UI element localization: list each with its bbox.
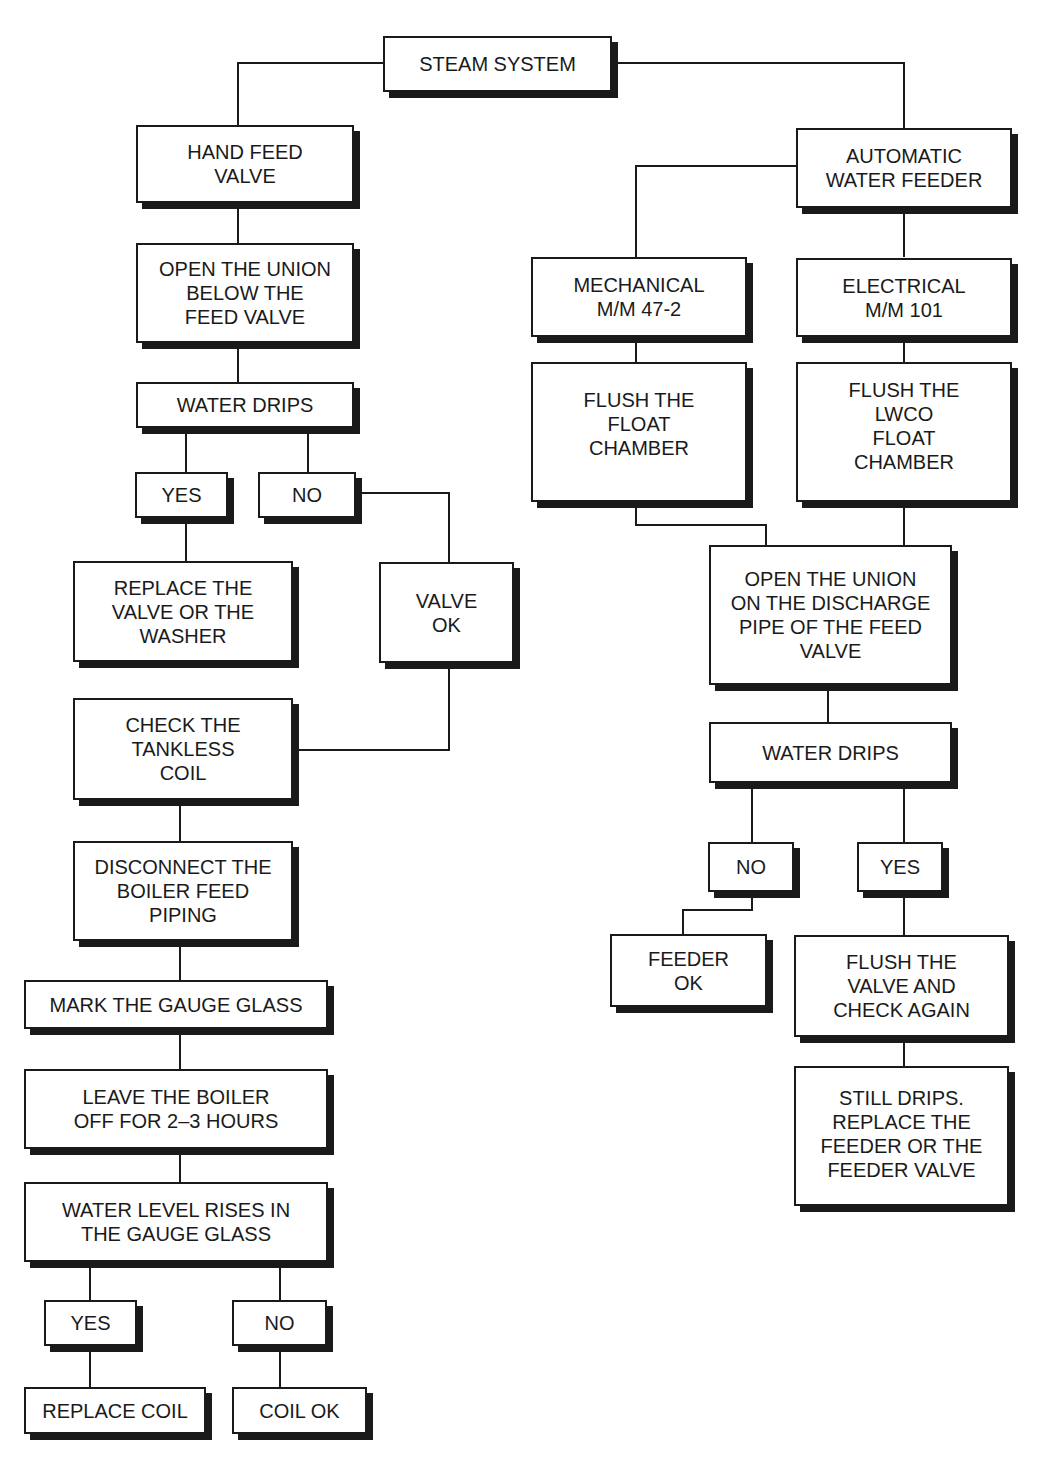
node-check-tankless-coil: CHECK THE TANKLESS COIL [73,698,293,800]
node-open-union-below-feed-valve: OPEN THE UNION BELOW THE FEED VALVE [136,243,354,343]
node-yes-drips-left: YES [135,472,228,518]
node-mechanical-feeder: MECHANICAL M/M 47-2 [531,257,747,337]
node-replace-valve-or-washer: REPLACE THE VALVE OR THE WASHER [73,561,293,662]
root-node-steam-system: STEAM SYSTEM [383,36,612,92]
node-yes-drips-right: YES [857,842,943,892]
node-no-drips-right: NO [708,842,794,892]
node-replace-coil: REPLACE COIL [24,1387,206,1434]
node-coil-ok: COIL OK [232,1387,367,1434]
node-water-level-rises: WATER LEVEL RISES IN THE GAUGE GLASS [24,1182,328,1262]
node-yes-level-rises: YES [44,1300,137,1346]
node-feeder-ok: FEEDER OK [610,934,767,1007]
node-no-drips-left: NO [258,472,356,518]
node-flush-valve-check-again: FLUSH THE VALVE AND CHECK AGAIN [794,935,1009,1037]
node-open-union-discharge-pipe: OPEN THE UNION ON THE DISCHARGE PIPE OF … [709,545,952,685]
node-no-level-rises: NO [232,1300,327,1346]
node-water-drips-right: WATER DRIPS [709,722,952,783]
node-mark-gauge-glass: MARK THE GAUGE GLASS [24,980,328,1029]
node-still-drips-replace-feeder: STILL DRIPS. REPLACE THE FEEDER OR THE F… [794,1066,1009,1206]
node-disconnect-boiler-feed-piping: DISCONNECT THE BOILER FEED PIPING [73,841,293,941]
node-valve-ok: VALVE OK [379,562,514,663]
node-hand-feed-valve: HAND FEED VALVE [136,125,354,203]
node-leave-boiler-off: LEAVE THE BOILER OFF FOR 2–3 HOURS [24,1069,328,1149]
node-flush-lwco-float-chamber: FLUSH THE LWCO FLOAT CHAMBER [796,362,1012,502]
node-automatic-water-feeder: AUTOMATIC WATER FEEDER [796,128,1012,208]
node-flush-float-chamber: FLUSH THE FLOAT CHAMBER [531,362,747,502]
node-electrical-feeder: ELECTRICAL M/M 101 [796,258,1012,337]
node-water-drips-left: WATER DRIPS [136,382,354,428]
